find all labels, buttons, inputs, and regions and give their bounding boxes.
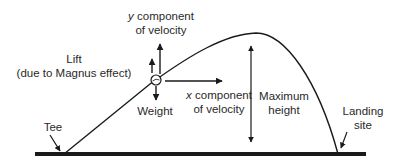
landing-site-label: Landing site bbox=[336, 104, 390, 132]
y-component-label: y component of velocity bbox=[120, 9, 202, 37]
lift-label: Lift (due to Magnus effect) bbox=[0, 52, 148, 80]
tee-pointer-arrow bbox=[50, 135, 60, 151]
x-component-text: component bbox=[192, 89, 252, 101]
max-height-line2: height bbox=[268, 104, 299, 116]
max-height-label: Maximum height bbox=[254, 89, 314, 117]
landing-line1: Landing bbox=[343, 105, 384, 117]
y-component-line2: of velocity bbox=[135, 24, 186, 36]
weight-text: Weight bbox=[137, 105, 173, 117]
weight-label: Weight bbox=[135, 104, 175, 118]
lift-line2: (due to Magnus effect) bbox=[17, 67, 132, 79]
tee-label: Tee bbox=[38, 120, 68, 134]
lift-line1: Lift bbox=[66, 53, 81, 65]
y-component-text: component bbox=[134, 10, 194, 22]
landing-line2: site bbox=[354, 119, 372, 131]
tee-text: Tee bbox=[44, 121, 63, 133]
landing-pointer-arrow bbox=[341, 132, 347, 148]
x-component-line2: of velocity bbox=[193, 103, 244, 115]
max-height-line1: Maximum bbox=[259, 90, 309, 102]
x-component-label: x component of velocity bbox=[174, 88, 264, 116]
